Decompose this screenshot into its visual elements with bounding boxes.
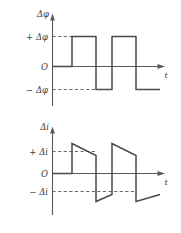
x-axis-arrow <box>158 64 166 69</box>
current-difference-chart: Δi + Δi O − Δi t <box>29 122 168 215</box>
origin-label: O <box>41 62 48 72</box>
x-axis-arrow <box>158 171 166 176</box>
origin-label: O <box>41 169 48 179</box>
y-axis-label: Δi <box>39 122 49 132</box>
ytick-negative-label: − Δi <box>29 187 48 197</box>
y-axis-arrow <box>50 14 55 21</box>
y-axis-arrow <box>50 127 55 134</box>
y-axis-label: Δφ <box>36 9 49 19</box>
waveform-figure: Δφ + Δφ O − Δφ t Δi + Δi O − Δi t <box>0 0 181 233</box>
phase-difference-chart: Δφ + Δφ O − Δφ t <box>26 9 168 106</box>
ytick-positive-label: + Δi <box>29 147 48 157</box>
figure-svg: Δφ + Δφ O − Δφ t Δi + Δi O − Δi t <box>0 0 181 233</box>
ytick-negative-label: − Δφ <box>26 85 48 95</box>
spike-wave-trace <box>53 144 161 202</box>
ytick-positive-label: + Δφ <box>26 32 48 42</box>
x-axis-label: t <box>164 71 168 80</box>
x-axis-label: t <box>164 178 168 187</box>
square-wave-trace <box>53 37 161 90</box>
